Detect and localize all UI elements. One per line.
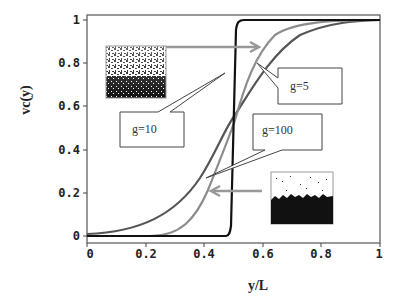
x-tick-label: 0.6 bbox=[252, 247, 274, 261]
x-tick-label: 0 bbox=[86, 247, 93, 261]
callout-g5-label: g=5 bbox=[290, 79, 309, 93]
x-axis-title: y/L bbox=[248, 278, 268, 293]
inset-disordered-image bbox=[106, 46, 166, 98]
y-tick-label: 0 bbox=[73, 229, 80, 243]
y-tick-label: 0.8 bbox=[58, 56, 80, 70]
callout-g100-label: g=100 bbox=[262, 123, 293, 137]
y-tick-label: 0.4 bbox=[58, 143, 80, 157]
x-tick-label: 1 bbox=[375, 247, 382, 261]
y-axis-title: vc(y) bbox=[18, 85, 34, 115]
x-tick-label: 0.4 bbox=[193, 247, 215, 261]
x-axis bbox=[87, 243, 380, 247]
callout-g10-label: g=10 bbox=[132, 122, 157, 136]
x-tick-label: 0.2 bbox=[135, 247, 157, 261]
chart: 1 0.8 0.6 0.4 0.2 0 0 0.2 0.4 0.6 0.8 1 … bbox=[0, 0, 398, 304]
y-tick-label: 0.2 bbox=[58, 186, 80, 200]
inset-ordered-image bbox=[271, 172, 333, 224]
y-tick-label: 0.6 bbox=[58, 99, 80, 113]
y-tick-label: 1 bbox=[73, 13, 80, 27]
x-tick-label: 0.8 bbox=[310, 247, 332, 261]
